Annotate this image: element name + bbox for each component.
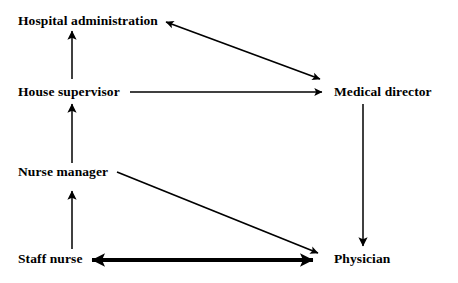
edge-nurse-manager-to-physician [117,172,318,253]
node-staff-nurse: Staff nurse [18,251,82,266]
node-hospital-administration: Hospital administration [18,13,158,28]
node-medical-director: Medical director [334,84,432,99]
organizational-diagram: Hospital administration House supervisor… [0,0,458,283]
node-physician: Physician [334,251,390,266]
edge-hospital-administration-medical-director [166,22,320,79]
node-house-supervisor: House supervisor [18,84,120,99]
edge-layer [0,0,458,283]
node-nurse-manager: Nurse manager [18,164,108,179]
